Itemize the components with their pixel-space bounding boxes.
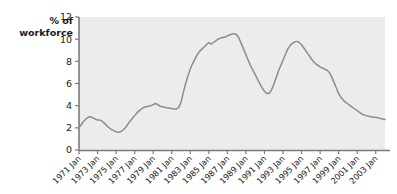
y-tick-label: 4 [66, 100, 72, 111]
x-axis: 1971 Jan1973 Jan1975 Jan1977 Jan1979 Jan… [50, 150, 379, 186]
y-tick-label: 8 [66, 56, 72, 67]
chart-canvas: 024681012 1971 Jan1973 Jan1975 Jan1977 J… [0, 0, 397, 194]
unemployment-line-chart: 024681012 1971 Jan1973 Jan1975 Jan1977 J… [0, 0, 397, 194]
plot-background [79, 17, 385, 150]
y-tick-label: 2 [66, 122, 72, 133]
y-tick-label: 6 [66, 78, 72, 89]
y-axis-title: % of workforce [19, 15, 74, 38]
y-tick-label: 0 [66, 144, 72, 155]
y-axis-title-line1: % of [50, 15, 74, 26]
y-axis-title-line2: workforce [19, 27, 73, 38]
